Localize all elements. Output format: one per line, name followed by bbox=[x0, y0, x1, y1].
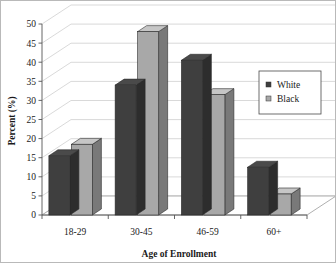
bar-side-face bbox=[159, 26, 168, 215]
bar-front-face bbox=[115, 85, 136, 215]
bars-layer bbox=[49, 26, 300, 215]
bar-column bbox=[181, 54, 211, 215]
y-tick-label: 15 bbox=[27, 153, 37, 163]
chart-legend: WhiteBlack bbox=[259, 71, 321, 114]
y-tick-label: 10 bbox=[27, 172, 37, 182]
legend-label: White bbox=[277, 80, 300, 90]
bar-chart: 05101520253035404550 18-2930-4546-5960+ … bbox=[1, 1, 336, 263]
chart-figure: 05101520253035404550 18-2930-4546-5960+ … bbox=[0, 0, 336, 263]
bar-side-face bbox=[92, 138, 101, 215]
legend-swatch bbox=[266, 96, 271, 101]
bar-front-face bbox=[248, 167, 269, 215]
y-tick-label: 40 bbox=[27, 58, 37, 68]
bar-side-face bbox=[269, 161, 278, 215]
y-tick-label: 5 bbox=[31, 191, 36, 201]
y-tick-label: 35 bbox=[27, 77, 37, 87]
y-tick-label: 25 bbox=[27, 115, 37, 125]
x-axis-categories: 18-2930-4546-5960+ bbox=[42, 215, 307, 237]
bar-column bbox=[115, 79, 145, 215]
gridline bbox=[42, 5, 336, 24]
legend-box bbox=[259, 71, 321, 114]
bar-column bbox=[248, 161, 278, 215]
bar-side-face bbox=[225, 89, 234, 215]
legend-label: Black bbox=[277, 94, 299, 104]
y-tick-label: 50 bbox=[27, 19, 37, 29]
bar-side-face bbox=[70, 150, 79, 215]
bar-side-face bbox=[136, 79, 145, 215]
bar-front-face bbox=[181, 60, 202, 215]
x-category-label: 30-45 bbox=[130, 227, 152, 237]
y-tick-label: 0 bbox=[31, 210, 36, 220]
gridline bbox=[42, 24, 336, 43]
y-axis-ticks: 05101520253035404550 bbox=[27, 19, 43, 220]
x-category-label: 18-29 bbox=[64, 227, 86, 237]
x-category-label: 46-59 bbox=[197, 227, 219, 237]
y-tick-label: 30 bbox=[27, 96, 37, 106]
y-tick-label: 20 bbox=[27, 134, 37, 144]
y-tick-label: 45 bbox=[27, 39, 37, 49]
legend-swatch bbox=[266, 82, 271, 87]
bar-side-face bbox=[202, 54, 211, 215]
bar-column bbox=[49, 150, 79, 215]
x-axis-title: Age of Enrollment bbox=[142, 249, 218, 259]
x-category-label: 60+ bbox=[266, 227, 281, 237]
bar-front-face bbox=[49, 156, 70, 215]
y-axis-title: Percent (%) bbox=[7, 96, 18, 145]
